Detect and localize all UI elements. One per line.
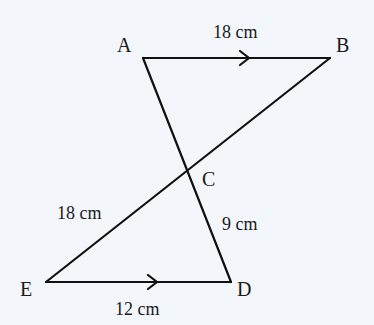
- geometry-diagram: A B C D E 18 cm 18 cm 9 cm 12 cm: [0, 0, 374, 325]
- point-label-c: C: [202, 168, 215, 190]
- point-label-e: E: [20, 278, 32, 300]
- measure-ed: 12 cm: [115, 299, 160, 319]
- point-label-a: A: [117, 34, 132, 56]
- measure-ab: 18 cm: [213, 22, 258, 42]
- segment-be: [46, 58, 330, 282]
- point-label-b: B: [336, 34, 349, 56]
- point-label-d: D: [237, 278, 251, 300]
- measure-cd: 9 cm: [222, 214, 258, 234]
- measure-ce: 18 cm: [57, 203, 102, 223]
